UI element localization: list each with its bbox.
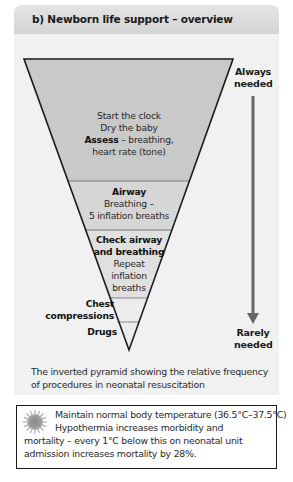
note-line-2: Hypothermia increases morbidity and — [55, 422, 223, 435]
always-needed-label: Always needed — [234, 66, 272, 90]
note-line-1: Maintain normal body temperature (36.5°C… — [55, 409, 286, 422]
level-4-label: Chest compressions — [44, 298, 114, 322]
note-line-4: admission increases mortality by 28%. — [24, 448, 196, 461]
temperature-note-box: Maintain normal body temperature (36.5°C… — [16, 405, 277, 469]
level-3-label: Check airway and breathing Repeat inflat… — [68, 234, 190, 294]
level-2-label: Airway Breathing – 5 inflation breaths — [68, 186, 190, 222]
figure-caption: The inverted pyramid showing the relativ… — [31, 366, 268, 391]
level-5-label: Drugs — [60, 326, 117, 338]
rarely-needed-label: Rarely needed — [234, 327, 272, 351]
level-1-label: Start the clock Dry the baby Assess – br… — [68, 110, 190, 158]
frequency-arrow-head — [247, 313, 259, 324]
sun-icon — [22, 409, 48, 435]
note-line-3: mortality – every 1°C below this on neon… — [24, 435, 242, 448]
